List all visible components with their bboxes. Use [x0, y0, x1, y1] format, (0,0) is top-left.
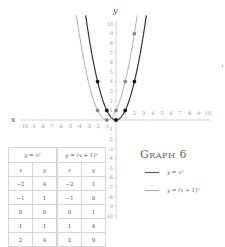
x-axis-label: x: [11, 115, 16, 124]
y-tick-label: 7: [110, 50, 113, 56]
data-point: [133, 32, 137, 36]
subheader-y: y: [82, 163, 106, 177]
legend-item-x-squared: y = x²: [145, 169, 184, 175]
legend-line-light: [145, 190, 159, 191]
y-tick-label: -3: [108, 146, 113, 152]
data-point: [114, 118, 118, 122]
y-tick-label: 2: [110, 98, 113, 104]
x-tick-label: 2: [133, 110, 136, 116]
y-tick-label: -7: [108, 184, 113, 190]
cell: 1: [57, 219, 82, 233]
x-tick-label: 8: [188, 110, 191, 116]
subheader-y: y: [33, 163, 58, 177]
x-tick-label: 7: [179, 110, 182, 116]
data-point: [105, 118, 109, 122]
y-tick-label: -10: [105, 213, 113, 219]
cell: 2: [57, 233, 82, 247]
cell: 4: [33, 177, 58, 191]
data-point: [123, 109, 127, 113]
cell: 1: [82, 177, 106, 191]
y-tick-label: 4: [110, 78, 113, 84]
y-tick-label: 9: [110, 30, 113, 36]
y-tick-label: -8: [108, 194, 113, 200]
cell: 0: [9, 205, 33, 219]
y-tick-label: 10: [107, 21, 113, 27]
legend-label: y = (x + 1)²: [167, 187, 199, 193]
x-tick-label: -2: [95, 123, 100, 129]
y-tick-label: -5: [108, 165, 113, 171]
y-tick-label: -6: [108, 174, 113, 180]
y-tick-label: -9: [108, 203, 113, 209]
values-table: y = x² y = (x + 1)² x y x y −2 4 −2 1 −1…: [8, 147, 106, 247]
legend-line-dark: [145, 172, 159, 173]
cell: −2: [57, 177, 82, 191]
x-tick-label: 3: [142, 110, 145, 116]
y-tick-label: 3: [110, 88, 113, 94]
legend-item-x-plus-1-squared: y = (x + 1)²: [145, 187, 199, 193]
y-axis-label: y: [112, 6, 118, 15]
y-tick-label: 6: [110, 59, 113, 65]
table-row: 0 0 0 1: [9, 205, 106, 219]
y-tick-label: 8: [110, 40, 113, 46]
table-row: 2 4 2 9: [9, 233, 106, 247]
cell: 4: [33, 233, 58, 247]
x-tick-label: 9: [197, 110, 200, 116]
table-row: −2 4 −2 1: [9, 177, 106, 191]
cell: 1: [33, 219, 58, 233]
cell: −1: [9, 191, 33, 205]
x-tick-label: 10: [205, 110, 211, 116]
cell: 0: [82, 191, 106, 205]
x-tick-label: 6: [170, 110, 173, 116]
legend-label: y = x²: [167, 169, 184, 175]
cell: 2: [9, 233, 33, 247]
x-tick-label: -8: [40, 123, 45, 129]
data-point: [105, 109, 109, 113]
table-row: 1 1 1 4: [9, 219, 106, 233]
graph-title: Graph 6: [140, 148, 187, 161]
table-header-x-plus-1-squared: y = (x + 1)²: [57, 148, 106, 163]
cell: 1: [82, 205, 106, 219]
x-tick-label: -6: [58, 123, 63, 129]
data-point: [96, 109, 100, 113]
data-point: [114, 109, 118, 113]
cell: 0: [57, 205, 82, 219]
subheader-x: x: [9, 163, 33, 177]
cell: −1: [57, 191, 82, 205]
x-tick-label: -7: [49, 123, 54, 129]
y-tick-label: -2: [108, 136, 113, 142]
y-tick-label: 1: [110, 107, 113, 113]
stray-mark: [222, 65, 223, 67]
table-header-x-squared: y = x²: [9, 148, 58, 163]
cell: 1: [9, 219, 33, 233]
subheader-x: x: [57, 163, 82, 177]
cell: 9: [82, 233, 106, 247]
x-tick-label: -9: [31, 123, 36, 129]
table-row: −1 1 −1 0: [9, 191, 106, 205]
x-tick-label: 4: [151, 110, 154, 116]
cell: 1: [33, 191, 58, 205]
y-tick-label: 5: [110, 69, 113, 75]
x-tick-label: -4: [77, 123, 82, 129]
x-tick-label: -5: [68, 123, 73, 129]
x-tick-label: -10: [20, 123, 28, 129]
cell: 0: [33, 205, 58, 219]
data-point: [96, 80, 100, 84]
y-tick-label: -4: [108, 155, 113, 161]
cell: 4: [82, 219, 106, 233]
cell: −2: [9, 177, 33, 191]
y-tick-label: -1: [108, 126, 113, 132]
x-tick-label: -3: [86, 123, 91, 129]
x-tick-label: 5: [160, 110, 163, 116]
data-point: [123, 80, 127, 84]
table-subheader-row: x y x y: [9, 163, 106, 177]
data-point: [133, 80, 137, 84]
